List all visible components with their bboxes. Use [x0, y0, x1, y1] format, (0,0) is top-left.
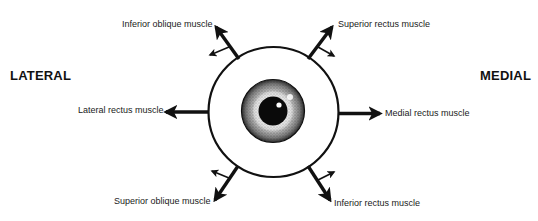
lateral-side-label: LATERAL: [10, 69, 71, 82]
inferior-rectus-label: Inferior rectus muscle: [334, 198, 420, 209]
superior-rectus-arrow: [308, 27, 334, 59]
inferior-oblique-arrow: [210, 27, 239, 59]
superior-oblique-label: Superior oblique muscle: [114, 196, 211, 207]
superior-oblique-arrow: [212, 166, 238, 200]
lateral-rectus-label: Lateral rectus muscle: [78, 105, 164, 116]
eye-muscle-diagram: LATERAL MEDIAL Inferior oblique muscle S…: [0, 0, 538, 221]
medial-side-label: MEDIAL: [480, 69, 531, 82]
inferior-oblique-label: Inferior oblique muscle: [122, 19, 213, 30]
inferior-rectus-arrow: [308, 166, 334, 200]
superior-rectus-label: Superior rectus muscle: [338, 19, 430, 30]
medial-rectus-label: Medial rectus muscle: [385, 108, 470, 119]
